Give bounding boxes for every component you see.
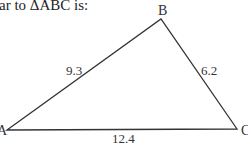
triangle-diagram: A B C 9.3 6.2 12.4 <box>0 0 248 145</box>
vertex-label-c: C <box>241 123 248 138</box>
side-label-ac: 12.4 <box>112 131 135 145</box>
vertex-label-a: A <box>0 123 8 138</box>
side-label-bc: 6.2 <box>201 63 217 78</box>
vertex-label-b: B <box>158 3 167 18</box>
side-label-ab: 9.3 <box>66 63 82 78</box>
